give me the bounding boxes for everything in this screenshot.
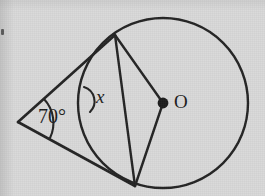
geometry-figure: 70° x O: [0, 0, 265, 196]
unknown-angle-label: x: [96, 87, 104, 106]
radius-to-lower-tangent: [135, 103, 163, 186]
tangent-upper-line: [18, 35, 115, 122]
apex-angle-label: 70°: [38, 106, 66, 126]
tangent-lower-line: [18, 122, 135, 186]
center-dot: [158, 98, 169, 109]
unknown-angle-arc: [84, 87, 94, 112]
center-label: O: [174, 92, 188, 111]
figure-canvas: [0, 0, 265, 196]
scan-artifact-speck: [1, 29, 4, 35]
